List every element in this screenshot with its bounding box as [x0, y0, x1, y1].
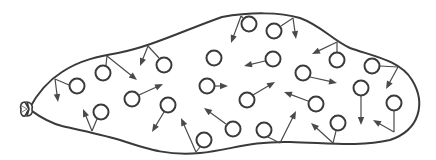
molecule-circle-icon [365, 59, 380, 74]
molecule-circle-icon [200, 79, 215, 94]
molecule [152, 98, 176, 133]
velocity-arrow [293, 18, 295, 33]
molecule [83, 105, 109, 132]
molecule [54, 79, 85, 103]
velocity-arrow [317, 42, 337, 51]
arrowhead-icon [220, 83, 228, 89]
arrowhead-icon [266, 82, 275, 89]
arrowhead-icon [386, 80, 393, 89]
molecule-circle-icon [161, 98, 176, 113]
molecule [244, 52, 281, 68]
molecule [373, 96, 402, 133]
velocity-arrow [310, 77, 331, 82]
molecule [96, 56, 138, 81]
gas-molecules [54, 16, 402, 152]
molecule-circle-icon [296, 66, 311, 81]
velocity-arrow [290, 94, 308, 101]
molecule [204, 108, 241, 137]
molecule [284, 92, 324, 112]
arrowhead-icon [328, 78, 337, 84]
velocity-arrow [315, 127, 333, 143]
molecule-circle-icon [197, 133, 212, 148]
molecule [257, 111, 297, 143]
velocity-arrow [139, 86, 158, 95]
molecule-circle-icon [207, 51, 222, 66]
arrowhead-icon [83, 109, 89, 118]
molecule-circle-icon [242, 17, 257, 32]
balloon-gas-diagram [0, 0, 436, 160]
collision-line [55, 79, 69, 85]
collision-line [196, 147, 200, 152]
arrowhead-icon [231, 34, 237, 43]
arrowhead-icon [152, 123, 159, 132]
velocity-arrow [142, 46, 148, 60]
arrowhead-icon [312, 48, 321, 54]
molecule-circle-icon [70, 79, 85, 94]
molecule [125, 84, 164, 107]
velocity-arrow [280, 116, 293, 143]
molecule [200, 79, 229, 94]
molecule-circle-icon [94, 105, 109, 120]
collision-line [106, 56, 107, 65]
balloon-knot-icon [21, 102, 33, 116]
collision-line [333, 131, 336, 143]
arrowhead-icon [204, 108, 212, 115]
arrowhead-icon [292, 31, 298, 39]
molecule-circle-icon [309, 97, 324, 112]
arrowhead-icon [181, 118, 187, 127]
molecule-circle-icon [354, 81, 369, 96]
collision-line [148, 46, 159, 58]
molecule [311, 116, 346, 144]
velocity-arrow [209, 112, 226, 124]
velocity-arrow [378, 123, 394, 132]
molecule [231, 16, 257, 43]
molecule [296, 66, 338, 85]
molecule [240, 82, 276, 108]
arrowhead-icon [284, 92, 293, 98]
molecule-circle-icon [267, 24, 282, 39]
arrowhead-icon [140, 57, 146, 66]
velocity-arrow [250, 61, 265, 65]
molecule-circle-icon [226, 122, 241, 137]
molecule [140, 46, 172, 73]
collision-line [281, 18, 293, 26]
diagram-canvas [0, 0, 436, 160]
molecule [354, 81, 369, 126]
molecule [267, 18, 299, 39]
molecule-circle-icon [331, 116, 346, 131]
molecule-circle-icon [387, 96, 402, 111]
molecule-circle-icon [257, 123, 272, 138]
molecule-circle-icon [330, 53, 345, 68]
arrowhead-icon [290, 111, 296, 120]
velocity-arrow [183, 123, 196, 152]
molecule [207, 51, 222, 66]
molecule [312, 42, 345, 68]
velocity-arrow [233, 16, 241, 37]
arrowhead-icon [373, 120, 382, 127]
velocity-arrow [155, 112, 164, 127]
arrowhead-icon [244, 61, 253, 67]
velocity-arrow [55, 79, 57, 96]
velocity-arrow [389, 67, 398, 84]
arrowhead-icon [358, 117, 364, 125]
molecule-circle-icon [266, 52, 281, 67]
molecule-circle-icon [240, 93, 255, 108]
collision-line [92, 119, 97, 131]
molecule-circle-icon [96, 66, 111, 81]
molecule [181, 118, 212, 152]
molecule-circle-icon [157, 58, 172, 73]
velocity-arrow [253, 85, 270, 95]
arrowhead-icon [154, 84, 163, 90]
collision-line [380, 66, 398, 67]
velocity-arrow [85, 115, 92, 131]
arrowhead-icon [54, 94, 60, 102]
molecule-circle-icon [125, 92, 140, 107]
